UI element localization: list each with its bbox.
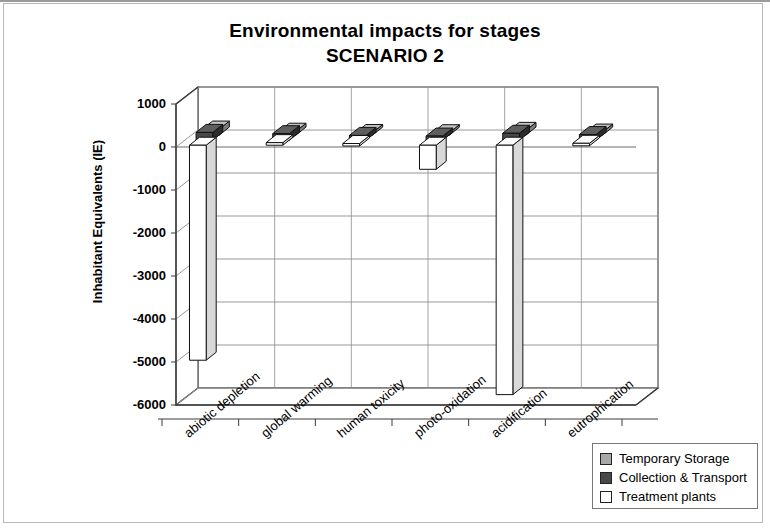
bar-abiotic-depletion-s2-front (189, 145, 206, 360)
bar-global-warming-s2-front (266, 143, 283, 146)
y-axis-tick-label: 0 (96, 139, 166, 154)
bar-human-toxicity-s2-front (343, 144, 360, 147)
legend-swatch-collection-transport (600, 472, 612, 484)
legend-item[interactable]: Treatment plants (600, 487, 757, 506)
bar-acidification-s2-side (513, 137, 523, 394)
y-axis-tick-label: -2000 (96, 225, 166, 240)
plot-area: Inhabitant Equivalents (IE) 10000-1000-2… (0, 0, 770, 530)
y-axis-tick-label: -3000 (96, 268, 166, 283)
chart-legend: Temporary Storage Collection & Transport… (592, 443, 758, 509)
y-axis-tick-label: -6000 (96, 397, 166, 412)
y-axis-tick-label: 1000 (96, 96, 166, 111)
y-axis-tick-label: -4000 (96, 311, 166, 326)
legend-item[interactable]: Collection & Transport (600, 468, 757, 487)
y-axis-tick-label: -5000 (96, 354, 166, 369)
legend-label: Treatment plants (619, 490, 716, 503)
legend-label: Temporary Storage (619, 452, 730, 465)
bar-eutrophication-s2-front (573, 143, 590, 146)
y-axis-tick-label: -1000 (96, 182, 166, 197)
legend-item[interactable]: Temporary Storage (600, 449, 757, 468)
bar-abiotic-depletion-s2-side (206, 137, 216, 360)
legend-swatch-temporary-storage (600, 453, 612, 465)
bar-photo-oxidation-s2-front (419, 145, 436, 169)
legend-swatch-treatment-plants (600, 491, 612, 503)
bar-acidification-s2-front (496, 145, 513, 394)
legend-label: Collection & Transport (619, 471, 747, 484)
